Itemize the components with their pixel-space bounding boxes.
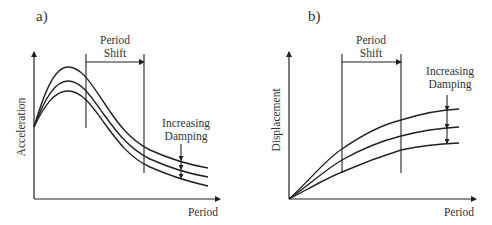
curve-high-damping: [289, 143, 459, 199]
damping-label-line1: Increasing: [162, 117, 210, 130]
panel-b-label: b): [308, 8, 321, 25]
x-axis-label: Period: [188, 206, 218, 218]
panel-a-acceleration: a) Acceleration Period Period Shift Incr…: [15, 8, 220, 218]
damping-label-line1: Increasing: [426, 65, 474, 78]
damping-label-line2: Damping: [165, 130, 208, 143]
panel-a-label: a): [36, 8, 48, 25]
damping-label-line2: Damping: [429, 78, 472, 91]
panel-b-displacement: b) Displacement Period Period Shift Incr…: [270, 8, 476, 218]
figure: a) Acceleration Period Period Shift Incr…: [0, 0, 492, 225]
period-shift-label-line1: Period: [356, 34, 386, 46]
y-axis-label: Acceleration: [15, 97, 27, 156]
period-shift-label-line2: Shift: [360, 47, 383, 59]
period-shift-label-line1: Period: [100, 34, 130, 46]
y-axis-label: Displacement: [270, 88, 283, 152]
curve-mid-damping: [289, 127, 459, 199]
period-shift-label-line2: Shift: [104, 47, 127, 59]
x-axis-label: Period: [444, 206, 474, 218]
